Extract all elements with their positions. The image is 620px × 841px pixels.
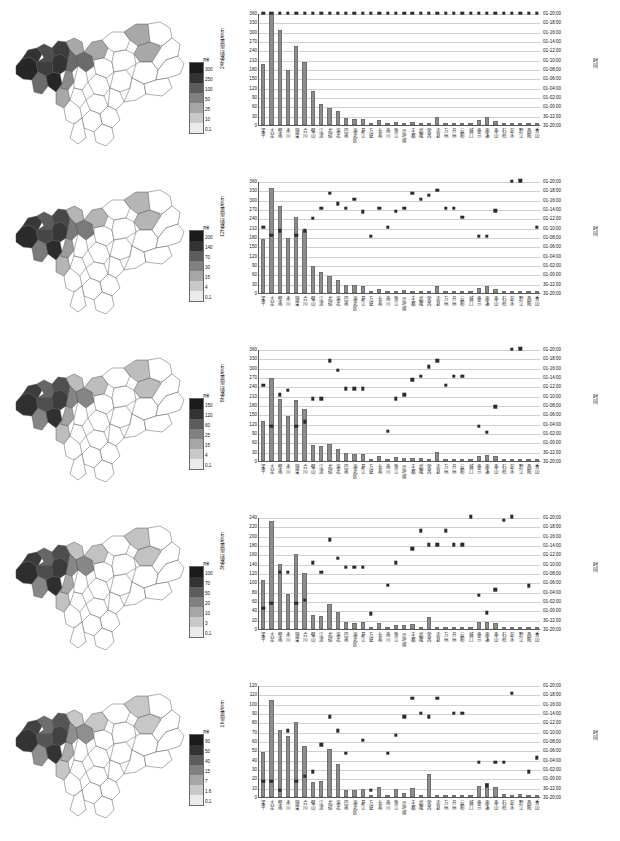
bar (526, 795, 530, 797)
x-axis-tick-label: 北碚 (326, 296, 331, 306)
right-axis-time-tick: 01-20:00 (543, 684, 561, 689)
bar (468, 291, 472, 293)
map-legend-swatch (190, 409, 203, 419)
x-axis-tick-label: 壁南 (276, 800, 281, 810)
x-axis-tick-label: 荣昌 (426, 632, 431, 642)
x-axis-tick-label: 合川 (301, 464, 306, 474)
bar (427, 123, 431, 125)
right-axis-time-tick: 01-06:00 (543, 581, 561, 586)
x-axis-tick-label: 城口 (467, 800, 472, 810)
gridline (259, 537, 540, 538)
gridline (259, 415, 540, 416)
gridline (259, 378, 540, 379)
map-legend-tick: 0.1 (205, 296, 211, 301)
x-axis-tick-label: 万州 (442, 296, 447, 306)
x-axis-tick-label: 万州 (442, 800, 447, 810)
x-axis-tick-label: 铜梁 (293, 632, 298, 642)
map-legend-tick: 200 (205, 236, 213, 241)
map-legend-tick: 300 (205, 68, 213, 73)
x-axis-tick-label: 长寿 (376, 632, 381, 642)
time-marker-point (261, 383, 264, 386)
time-marker-point (494, 11, 497, 14)
x-axis-tick-label: 合川 (301, 632, 306, 642)
right-axis-time-tick: 01-12:00 (543, 385, 561, 390)
y-axis-tick: 120 (249, 254, 257, 259)
time-marker-point (436, 359, 439, 362)
time-marker-point (386, 583, 389, 586)
bar (460, 291, 464, 293)
bar (452, 291, 456, 293)
y-axis-tick: 120 (249, 86, 257, 91)
time-marker-point (477, 761, 480, 764)
bar (493, 787, 497, 797)
time-marker-point (336, 11, 339, 14)
right-axis-time-tick: 01-12:00 (543, 721, 561, 726)
map-legend-colorbar: 1007050201030.1 (189, 566, 204, 638)
map-region (60, 406, 74, 426)
right-axis-time-tick: 01-02:00 (543, 768, 561, 773)
time-marker-point (477, 594, 480, 597)
time-marker-point (502, 11, 505, 14)
map-region (112, 50, 136, 72)
x-axis-tick-label: 黔江 (517, 800, 522, 810)
rainfall-choropleth-map (8, 172, 188, 332)
y-axis-tick: 0 (254, 628, 257, 633)
x-axis-tick-label: 南川 (384, 464, 389, 474)
x-axis-tick-label: 丰都 (409, 296, 414, 306)
right-axis-time-tick: 01-04:00 (543, 758, 561, 763)
right-axis-time-tick: 01-04:00 (543, 254, 561, 259)
x-axis-tick-label: 壁南 (276, 464, 281, 474)
gridline (259, 425, 540, 426)
bar (369, 627, 373, 629)
y-axis-tick: 10 (252, 786, 257, 791)
x-axis-tick-label: 万盛 (368, 128, 373, 138)
map-legend-swatch (190, 785, 203, 795)
right-axis-time-tick: 01-08:00 (543, 236, 561, 241)
plot-area: 030-20:002030-22:004001-00:006001-02:008… (258, 518, 540, 630)
x-axis-tick-label: 石柱 (500, 464, 505, 474)
y-axis-tick: 90 (252, 96, 257, 101)
bar (327, 276, 331, 293)
x-axis-tick-label: 丰都 (409, 464, 414, 474)
x-axis-tick-label: 彭水 (509, 800, 514, 810)
bar (402, 793, 406, 797)
gridline (259, 527, 540, 528)
time-marker-point (427, 365, 430, 368)
gridline (259, 574, 540, 575)
bar (435, 286, 439, 293)
bar (510, 627, 514, 629)
rainfall-bar-chart: 030-20:003030-22:006001-00:009001-02:001… (214, 2, 614, 166)
x-axis-tick-label: 云阳 (459, 632, 464, 642)
time-marker-point (461, 543, 464, 546)
right-axis-time-tick: 01-12:00 (543, 553, 561, 558)
gridline (259, 369, 540, 370)
x-axis-tick-label: 石柱 (500, 296, 505, 306)
x-axis-tick-label: 武隆 (417, 296, 422, 306)
bar (535, 459, 539, 461)
y-axis-tick: 0 (254, 796, 257, 801)
bar (452, 459, 456, 461)
map-legend-swatch (190, 745, 203, 755)
x-axis-tick-label: 壁南 (276, 128, 281, 138)
y-axis-tick: 180 (249, 544, 257, 549)
bar (278, 730, 282, 797)
time-marker-point (419, 11, 422, 14)
gridline (259, 61, 540, 62)
x-axis-tick-label: 开州 (451, 296, 456, 306)
x-axis-tick-label: 沙坪坝 (401, 632, 406, 647)
right-axis-time-tick: 01-04:00 (543, 86, 561, 91)
time-marker-point (295, 11, 298, 14)
time-marker-point (436, 11, 439, 14)
x-axis-tick-label: 丰都 (409, 800, 414, 810)
time-marker-point (402, 393, 405, 396)
gridline (259, 359, 540, 360)
map-region (60, 574, 74, 594)
gridline (259, 555, 540, 556)
right-axis-title: 时间 (592, 562, 599, 573)
bar (394, 625, 398, 629)
bar (435, 452, 439, 461)
time-marker-point (311, 216, 314, 219)
bar (294, 400, 298, 461)
time-marker-point (461, 215, 464, 218)
time-marker-point (261, 779, 264, 782)
